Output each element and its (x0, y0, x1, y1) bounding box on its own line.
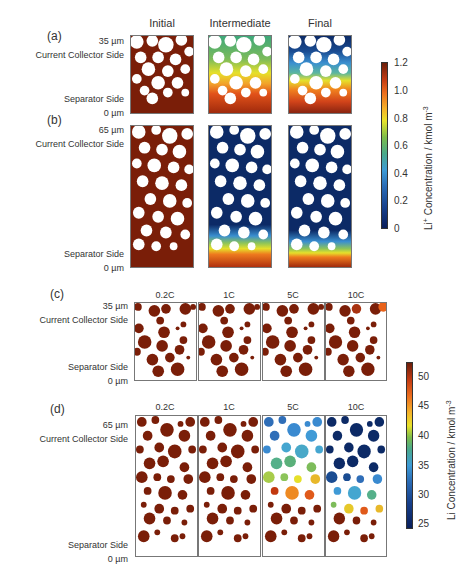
cb2-tick: 25 (418, 519, 429, 529)
panel-b-top-depth: 65 µm (99, 125, 124, 136)
column-title-1c: 1C (198, 402, 260, 412)
column-title-10c: 10C (325, 402, 387, 412)
panel-b-intermediate-image (208, 125, 272, 268)
column-title-0-2c: 0.2C (134, 290, 196, 300)
cb2-tick: 45 (418, 401, 429, 411)
column-title-5c: 5C (262, 290, 324, 300)
panel-c-5c-image (262, 302, 325, 381)
cb1-tick: 0.2 (394, 196, 408, 206)
panel-d-bottom-side: Separator Side (68, 540, 128, 551)
panel-a-letter: (a) (47, 29, 62, 43)
cb1-tick: 1.0 (394, 86, 408, 96)
panel-d-bottom-depth: 0 µm (108, 554, 128, 565)
panel-b-bottom-depth: 0 µm (104, 263, 124, 274)
panel-d-10c-image (325, 415, 387, 557)
panel-c-bottom-depth: 0 µm (108, 376, 128, 387)
electrolyte-colorbar-label: Li+ Concentration / kmol m-3 (422, 106, 434, 230)
panel-d-top-side: Current Collector Side (39, 434, 128, 445)
panel-a-final-image (288, 35, 352, 114)
panel-a-initial-image (130, 35, 194, 114)
panel-a-top-side: Current Collector Side (35, 50, 124, 61)
panel-d-letter: (d) (50, 402, 65, 416)
panel-d-1c-image (198, 415, 261, 557)
panel-a-intermediate-image (208, 35, 272, 114)
cb2-tick: 30 (418, 490, 429, 500)
panel-c-letter: (c) (50, 287, 64, 301)
column-title-0-2c: 0.2C (134, 402, 196, 412)
panel-a-bottom-depth: 0 µm (104, 108, 124, 119)
panel-b-final-image (288, 125, 352, 268)
cb2-tick: 35 (418, 461, 429, 471)
electrolyte-colorbar (381, 62, 388, 229)
panel-b-letter: (b) (47, 113, 62, 127)
panel-c-0-2c-image (134, 302, 197, 381)
panel-c-1c-image (198, 302, 261, 381)
column-title-initial: Initial (130, 17, 194, 29)
panel-d-0-2c-image (135, 415, 198, 557)
cb1-tick: 0.4 (394, 169, 408, 179)
column-title-5c: 5C (262, 402, 324, 412)
panel-b-top-side: Current Collector Side (35, 139, 124, 150)
panel-b-initial-image (130, 125, 194, 268)
solid-colorbar-label: Li Concentration / kmol m-3 (445, 400, 457, 520)
cb1-tick: 0.6 (394, 141, 408, 151)
cb2-tick: 40 (418, 431, 429, 441)
column-title-final: Final (288, 17, 352, 29)
panel-a-bottom-side: Separator Side (64, 94, 124, 105)
cb1-tick: 0 (394, 224, 400, 234)
solid-colorbar (406, 362, 413, 529)
column-title-10c: 10C (325, 290, 387, 300)
panel-b-bottom-side: Separator Side (64, 249, 124, 260)
panel-d-5c-image (262, 415, 325, 557)
column-title-1c: 1C (198, 290, 260, 300)
panel-d-top-depth: 65 µm (103, 420, 128, 431)
panel-c-top-depth: 35 µm (103, 301, 128, 312)
panel-c-bottom-side: Separator Side (68, 362, 128, 373)
cb1-tick: 1.2 (394, 58, 408, 68)
cb2-tick: 50 (418, 372, 429, 382)
panel-a-top-depth: 35 µm (99, 36, 124, 47)
cb1-tick: 0.8 (394, 114, 408, 124)
column-title-intermediate: Intermediate (200, 17, 280, 29)
panel-c-10c-image (325, 302, 387, 381)
panel-c-top-side: Current Collector Side (39, 315, 128, 326)
